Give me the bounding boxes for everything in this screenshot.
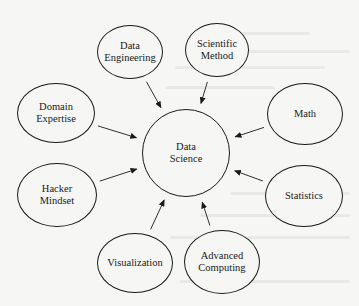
node-domain-expertise: DomainExpertise [17, 83, 95, 143]
node-label: Scientific [197, 38, 237, 50]
node-label: Computing [198, 262, 245, 274]
node-label: Method [201, 50, 234, 62]
data-science-diagram: DataScienceDataEngineeringScientificMeth… [0, 0, 359, 306]
node-advanced-computing: AdvancedComputing [184, 230, 260, 294]
arrow-statistics-to-data-science [235, 171, 263, 181]
node-math: Math [267, 83, 343, 145]
node-data-engineering: DataEngineering [97, 25, 163, 79]
node-label: Visualization [107, 257, 162, 269]
node-label: Science [170, 153, 203, 165]
node-scientific-method: ScientificMethod [185, 23, 249, 77]
arrow-visualization-to-data-science [151, 200, 165, 229]
node-label: Expertise [36, 113, 76, 125]
node-hacker-mindset: HackerMindset [17, 163, 97, 227]
arrow-advanced-computing-to-data-science [202, 202, 210, 225]
node-label: Statistics [285, 190, 323, 202]
node-label: Data [120, 40, 140, 52]
node-statistics: Statistics [265, 165, 343, 227]
node-label: Hacker [42, 183, 72, 195]
node-label: Engineering [104, 52, 155, 64]
arrow-math-to-data-science [235, 127, 264, 136]
node-label: Advanced [201, 250, 244, 262]
node-label: Data [176, 141, 196, 153]
arrow-scientific-method-to-data-science [201, 82, 207, 103]
arrow-data-engineering-to-data-science [147, 82, 161, 108]
node-label: Domain [39, 101, 73, 113]
node-label: Math [294, 108, 316, 120]
node-data-science: DataScience [142, 109, 230, 197]
arrow-hacker-mindset-to-data-science [100, 169, 137, 181]
arrow-domain-expertise-to-data-science [98, 126, 136, 138]
node-label: Mindset [40, 195, 74, 207]
node-visualization: Visualization [97, 233, 173, 293]
